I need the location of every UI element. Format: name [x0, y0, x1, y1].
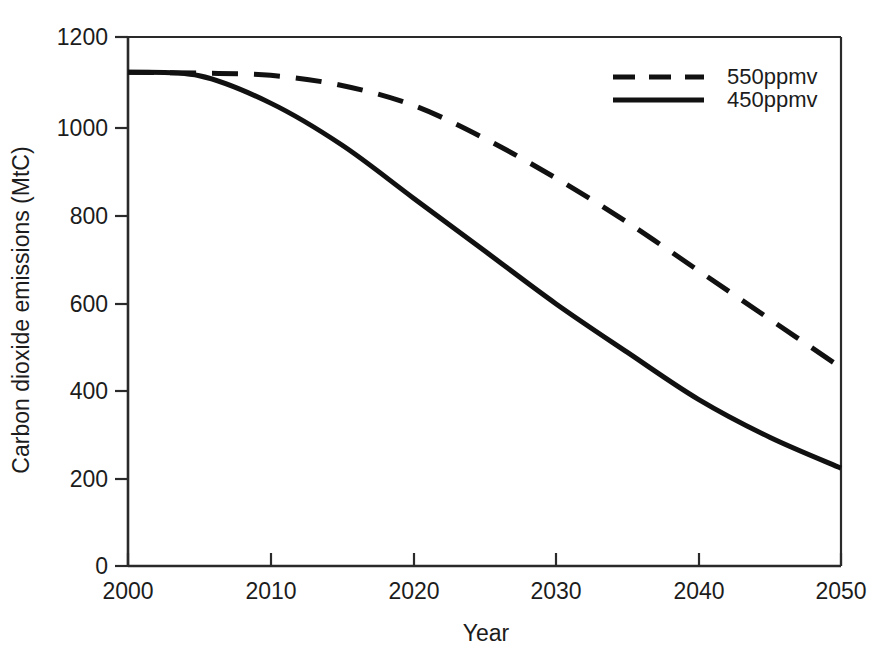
x-tick-label-2010: 2010: [245, 578, 296, 605]
series-line-550ppmv: [128, 72, 841, 367]
legend-label-450ppmv: 450ppmv: [727, 87, 818, 113]
x-tick-label-2040: 2040: [673, 578, 724, 605]
x-axis-ticks: [128, 553, 841, 566]
plot-frame: [128, 37, 841, 566]
y-axis-title: Carbon dioxide emissions (MtC): [8, 30, 42, 590]
series-line-450ppmv: [128, 72, 841, 468]
x-tick-label-2050: 2050: [815, 578, 866, 605]
chart-figure: 1200 1000 800 600 400 200 0 2000 2010 20…: [0, 0, 882, 669]
x-tick-label-2000: 2000: [102, 578, 153, 605]
x-axis-title: Year: [463, 620, 509, 647]
x-tick-label-2030: 2030: [530, 578, 581, 605]
x-tick-label-2020: 2020: [388, 578, 439, 605]
y-axis-ticks: [115, 37, 128, 566]
